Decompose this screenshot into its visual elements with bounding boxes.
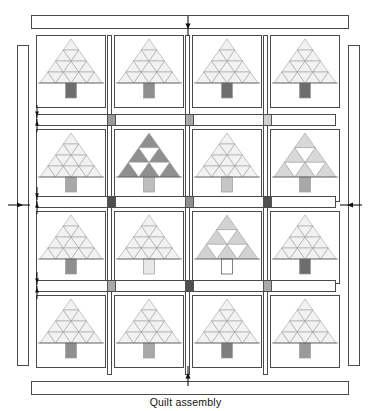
tree-block-r1c2	[114, 35, 184, 108]
arrow-sash-1-b	[33, 119, 41, 132]
tree-block-r3c4	[270, 211, 340, 284]
tree-block-r3c1	[36, 211, 106, 284]
tree-block-r2c4	[270, 129, 340, 202]
sashing-square	[107, 281, 116, 291]
tree-block-r4c2	[114, 295, 184, 368]
horizontal-sashing-3	[36, 280, 336, 292]
arrow-sash-3-b	[33, 286, 41, 299]
sashing-square	[185, 115, 194, 125]
figure-caption: Quilt assembly	[0, 396, 371, 408]
tree-block-r2c3	[192, 129, 262, 202]
tree-block-r3c2	[114, 211, 184, 284]
tree-block-r1c3	[192, 35, 262, 108]
quilt-assembly-diagram: Quilt assembly	[0, 0, 371, 411]
sashing-square	[107, 197, 116, 207]
tree-block-r2c1	[36, 129, 106, 202]
arrow-sash-2-b	[33, 201, 41, 214]
sashing-square	[263, 197, 272, 207]
horizontal-sashing-2	[36, 196, 336, 208]
horizontal-sashing-1	[36, 114, 336, 126]
arrow-sash-2-a	[33, 187, 41, 200]
arrow-sash-3-a	[33, 272, 41, 285]
tree-block-r1c4	[270, 35, 340, 108]
sashing-square	[185, 281, 194, 291]
sashing-square	[185, 197, 194, 207]
tree-block-r4c4	[270, 295, 340, 368]
sashing-square	[107, 115, 116, 125]
sashing-square	[263, 281, 272, 291]
arrow-left-border	[8, 201, 30, 209]
arrow-right-border	[340, 201, 362, 209]
tree-block-r1c1	[36, 35, 106, 108]
tree-block-r4c3	[192, 295, 262, 368]
arrow-top-center	[184, 16, 192, 36]
arrow-sash-1-a	[33, 105, 41, 118]
tree-block-r3c3	[192, 211, 262, 284]
arrow-bottom-center	[184, 366, 192, 386]
tree-block-r2c2	[114, 129, 184, 202]
quilt-body	[36, 35, 336, 375]
sashing-square	[263, 115, 272, 125]
tree-block-r4c1	[36, 295, 106, 368]
